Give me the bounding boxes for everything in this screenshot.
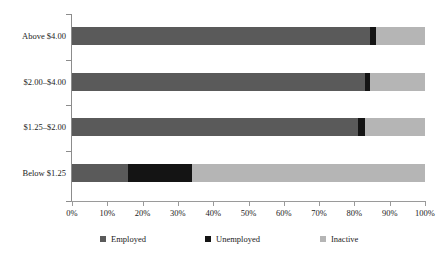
bar-row bbox=[72, 27, 425, 45]
value-tick bbox=[143, 202, 144, 206]
value-tick-label: 10% bbox=[87, 208, 127, 218]
value-tick-label: 40% bbox=[193, 208, 233, 218]
value-tick-label: 20% bbox=[123, 208, 163, 218]
category-tick bbox=[66, 60, 71, 61]
category-label: $1.25–$2.00 bbox=[0, 122, 66, 132]
legend-item-employed[interactable]: Employed bbox=[100, 234, 146, 244]
value-tick bbox=[425, 202, 426, 206]
value-tick bbox=[319, 202, 320, 206]
bar-segment-inactive bbox=[365, 118, 425, 136]
category-label: $2.00–$4.00 bbox=[0, 77, 66, 87]
bar-segment-unemployed bbox=[128, 164, 192, 182]
value-tick bbox=[107, 202, 108, 206]
category-label: Below $1.25 bbox=[0, 168, 66, 178]
value-tick bbox=[213, 202, 214, 206]
legend-label: Unemployed bbox=[216, 234, 260, 244]
bar-row bbox=[72, 164, 425, 182]
legend-label: Inactive bbox=[331, 234, 358, 244]
value-tick-label: 80% bbox=[334, 208, 374, 218]
value-tick bbox=[354, 202, 355, 206]
bar-segment-inactive bbox=[376, 27, 425, 45]
category-tick bbox=[66, 201, 71, 202]
bar-segment-inactive bbox=[370, 73, 425, 91]
category-label: Above $4.00 bbox=[0, 31, 66, 41]
value-tick bbox=[178, 202, 179, 206]
value-tick-label: 90% bbox=[370, 208, 410, 218]
chart-legend: EmployedUnemployedInactive bbox=[0, 232, 442, 250]
value-tick bbox=[284, 202, 285, 206]
bar-segment-employed bbox=[72, 164, 128, 182]
category-tick bbox=[66, 14, 71, 15]
bar-segment-employed bbox=[72, 73, 365, 91]
bar-segment-employed bbox=[72, 118, 358, 136]
legend-label: Employed bbox=[111, 234, 146, 244]
category-tick bbox=[66, 151, 71, 152]
value-tick bbox=[72, 202, 73, 206]
stacked-bar-chart: Above $4.00$2.00–$4.00$1.25–$2.00Below $… bbox=[0, 0, 442, 262]
legend-swatch-icon bbox=[100, 236, 106, 242]
legend-item-unemployed[interactable]: Unemployed bbox=[205, 234, 260, 244]
legend-swatch-icon bbox=[320, 236, 326, 242]
legend-item-inactive[interactable]: Inactive bbox=[320, 234, 358, 244]
value-tick-label: 30% bbox=[158, 208, 198, 218]
value-tick bbox=[390, 202, 391, 206]
category-tick bbox=[66, 105, 71, 106]
value-tick bbox=[249, 202, 250, 206]
value-tick-label: 70% bbox=[299, 208, 339, 218]
value-tick-label: 0% bbox=[52, 208, 92, 218]
bar-row bbox=[72, 73, 425, 91]
bar-segment-inactive bbox=[192, 164, 425, 182]
bar-row bbox=[72, 118, 425, 136]
bar-segment-unemployed bbox=[358, 118, 365, 136]
bar-segment-employed bbox=[72, 27, 370, 45]
value-tick-label: 50% bbox=[229, 208, 269, 218]
value-tick-label: 60% bbox=[264, 208, 304, 218]
value-tick-label: 100% bbox=[405, 208, 442, 218]
legend-swatch-icon bbox=[205, 236, 211, 242]
plot-area bbox=[72, 14, 425, 200]
